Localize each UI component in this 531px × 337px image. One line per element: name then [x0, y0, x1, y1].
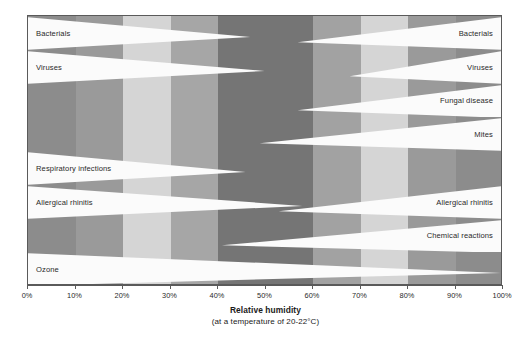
- tick-label-20%: 20%: [115, 291, 130, 300]
- humidity-chart: BacterialsBacterialsVirusesVirusesFungal…: [27, 15, 502, 285]
- band-label-right-chemical-reactions: Chemical reactions: [427, 231, 493, 240]
- tick-label-50%: 50%: [257, 291, 272, 300]
- tick-100%: [502, 285, 503, 289]
- tick-0%: [27, 285, 28, 289]
- band-mites: Mites: [28, 117, 501, 151]
- tick-label-0%: 0%: [22, 291, 33, 300]
- band-respiratory-infections: Respiratory infections: [28, 151, 501, 185]
- tick-20%: [122, 285, 123, 289]
- tick-label-40%: 40%: [210, 291, 225, 300]
- tick-60%: [312, 285, 313, 289]
- band-viruses: VirusesViruses: [28, 50, 501, 84]
- band-label-left-viruses: Viruses: [36, 62, 62, 71]
- band-allergical-rhinitis: Allergical rhinitisAllergical rhinitis: [28, 185, 501, 219]
- axis-subtitle: (at a temperature of 20-22°C): [0, 317, 531, 326]
- tick-label-60%: 60%: [305, 291, 320, 300]
- tick-label-90%: 90%: [447, 291, 462, 300]
- tick-50%: [265, 285, 266, 289]
- band-chemical-reactions: Chemical reactions: [28, 219, 501, 253]
- tick-label-30%: 30%: [162, 291, 177, 300]
- band-label-left-ozone: Ozone: [36, 265, 59, 274]
- band-label-right-fungal-disease: Fungal disease: [440, 96, 493, 105]
- band-fungal-disease: Fungal disease: [28, 84, 501, 118]
- tick-40%: [217, 285, 218, 289]
- band-label-left-respiratory-infections: Respiratory infections: [36, 163, 111, 172]
- band-label-right-viruses: Viruses: [467, 62, 493, 71]
- wedge-right-mites: [260, 118, 501, 151]
- band-ozone: Ozone: [28, 252, 501, 285]
- band-label-right-mites: Mites: [474, 130, 493, 139]
- band-label-right-bacterials: Bacterials: [459, 28, 493, 37]
- wedge-left-ozone: [28, 253, 501, 285]
- tick-30%: [170, 285, 171, 289]
- tick-label-100%: 100%: [493, 291, 512, 300]
- band-bacterials: BacterialsBacterials: [28, 16, 501, 50]
- tick-label-80%: 80%: [400, 291, 415, 300]
- tick-label-10%: 10%: [67, 291, 82, 300]
- tick-80%: [407, 285, 408, 289]
- band-label-right-allergical-rhinitis: Allergical rhinitis: [436, 197, 493, 206]
- tick-70%: [360, 285, 361, 289]
- tick-90%: [455, 285, 456, 289]
- band-label-left-allergical-rhinitis: Allergical rhinitis: [36, 197, 93, 206]
- tick-10%: [75, 285, 76, 289]
- axis-title: Relative humidity: [0, 305, 531, 315]
- tick-label-70%: 70%: [352, 291, 367, 300]
- wedge-left-viruses: [28, 51, 265, 84]
- band-label-left-bacterials: Bacterials: [36, 28, 70, 37]
